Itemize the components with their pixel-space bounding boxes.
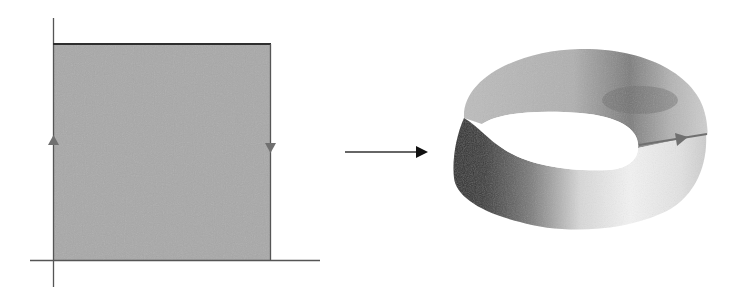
- map-arrow: [345, 146, 428, 158]
- identification-square-group: [30, 18, 320, 287]
- diagram-canvas: [0, 0, 735, 301]
- shaded-square: [54, 44, 270, 260]
- arrow-right-icon: [416, 146, 428, 158]
- mobius-band-shadow: [602, 86, 678, 114]
- mobius-band: [453, 49, 707, 230]
